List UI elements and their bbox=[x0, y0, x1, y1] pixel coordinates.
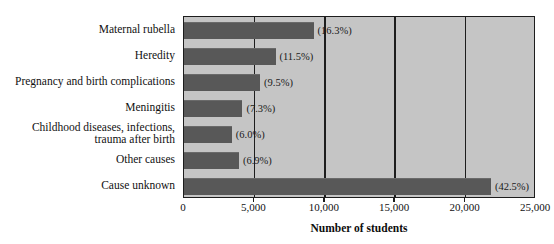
category-label: Maternal rubella bbox=[99, 23, 175, 36]
gridline bbox=[465, 17, 467, 197]
bar-value-label: (42.5%) bbox=[491, 178, 529, 194]
x-tick-label: 5,000 bbox=[241, 201, 266, 213]
category-label: Cause unknown bbox=[101, 179, 175, 192]
category-axis-labels: Maternal rubellaHeredityPregnancy and bi… bbox=[0, 16, 179, 198]
gridline bbox=[324, 17, 326, 197]
plot-area: (16.3%)(11.5%)(9.5%)(7.3%)(6.0%)(6.9%)(4… bbox=[183, 16, 535, 198]
x-tick-label: 15,000 bbox=[379, 201, 409, 213]
bar-value-label: (9.5%) bbox=[260, 74, 293, 90]
bar-value-label: (6.0%) bbox=[232, 126, 265, 142]
bar bbox=[184, 48, 276, 65]
gridline bbox=[394, 17, 396, 197]
x-tick-label: 10,000 bbox=[309, 201, 339, 213]
bar bbox=[184, 22, 314, 39]
category-label: Pregnancy and birth complications bbox=[15, 75, 175, 88]
bar-value-label: (11.5%) bbox=[276, 48, 314, 64]
x-tick-label: 0 bbox=[180, 201, 186, 213]
bar-value-label: (16.3%) bbox=[314, 22, 352, 38]
bar bbox=[184, 100, 242, 117]
bar bbox=[184, 74, 260, 91]
category-label: Heredity bbox=[135, 49, 175, 62]
category-label: Other causes bbox=[116, 153, 175, 166]
bar-chart: Maternal rubellaHeredityPregnancy and bi… bbox=[0, 0, 554, 244]
bar bbox=[184, 152, 239, 169]
bar-value-label: (7.3%) bbox=[242, 100, 275, 116]
category-label: Childhood diseases, infections, trauma a… bbox=[32, 121, 175, 146]
bar bbox=[184, 126, 232, 143]
bar-value-label: (6.9%) bbox=[239, 152, 272, 168]
x-tick-label: 20,000 bbox=[449, 201, 479, 213]
bar bbox=[184, 178, 491, 195]
x-axis-title: Number of students bbox=[183, 222, 535, 234]
category-label: Meningitis bbox=[125, 101, 175, 114]
x-tick-label: 25,000 bbox=[520, 201, 550, 213]
